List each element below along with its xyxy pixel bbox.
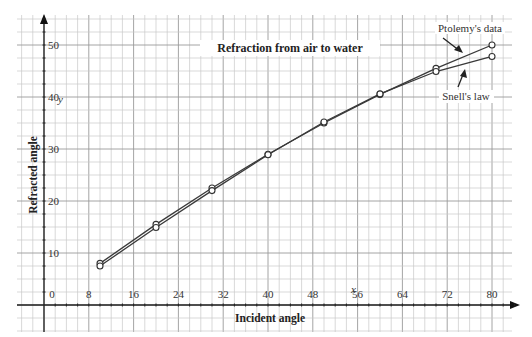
chart: 081624324048566472801020304050 Refractio… [0, 0, 532, 337]
x-tick-label: 8 [86, 288, 92, 300]
data-point-snell-s-law [377, 91, 383, 97]
y-variable-label: y [57, 93, 63, 105]
arrow-snell-head [460, 69, 467, 78]
x-tick-label: 48 [307, 288, 319, 300]
y-tick-label: 20 [48, 195, 60, 207]
series-line-ptolemy-s-data [100, 45, 492, 263]
x-tick-label: 32 [218, 288, 229, 300]
data-point-snell-s-law [433, 69, 439, 75]
data-point-ptolemy-s-data [489, 42, 495, 48]
x-tick-label: 64 [397, 288, 409, 300]
y-tick-label: 10 [48, 247, 60, 259]
data-point-snell-s-law [489, 53, 495, 59]
y-axis-title: Refracted angle [27, 136, 40, 214]
x-axis-arrow [510, 301, 520, 309]
x-axis-title: Incident angle [235, 312, 305, 325]
data-point-snell-s-law [321, 119, 327, 125]
x-tick-label: 80 [487, 288, 499, 300]
x-tick-label: 40 [263, 288, 275, 300]
y-tick-label: 50 [48, 39, 60, 51]
x-tick-label: 0 [49, 288, 55, 300]
y-tick-label: 30 [48, 143, 60, 155]
axes [17, 14, 520, 332]
annotation-snell: Snell's law [442, 90, 490, 102]
tick-labels: 081624324048566472801020304050 [48, 39, 498, 300]
data-point-snell-s-law [97, 263, 103, 269]
series-line-snell-s-law [100, 56, 492, 266]
series-layer [97, 42, 495, 269]
x-tick-label: 16 [128, 288, 140, 300]
data-point-snell-s-law [265, 152, 271, 158]
x-tick-label: 72 [442, 288, 453, 300]
x-variable-label: x [350, 283, 356, 295]
data-point-snell-s-law [209, 188, 215, 194]
x-tick-label: 24 [173, 288, 185, 300]
chart-title: Refraction from air to water [217, 41, 363, 55]
data-point-snell-s-law [153, 225, 159, 231]
annotation-ptolemy: Ptolemy's data [438, 22, 502, 34]
grid [17, 15, 512, 332]
